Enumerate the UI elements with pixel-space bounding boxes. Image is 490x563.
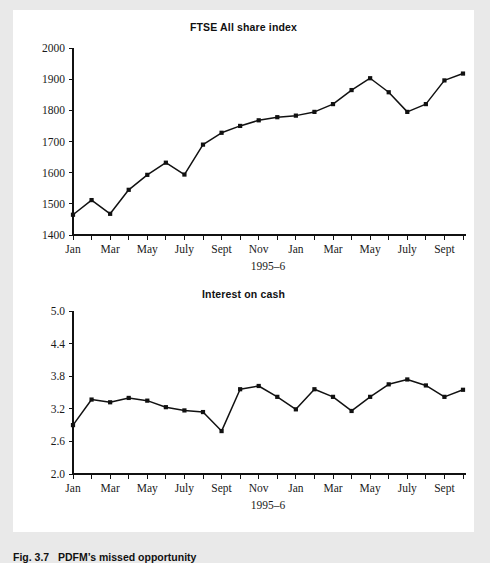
x-tick-label: July [398, 243, 417, 256]
data-point-marker [238, 124, 242, 128]
x-tick-label: Sept [211, 243, 232, 256]
data-point-marker [164, 405, 168, 409]
series-line [73, 74, 463, 215]
plot-area-interest: 2.02.63.23.84.45.0JanMarMayJulySeptNovJa… [13, 278, 474, 510]
data-point-marker [257, 384, 261, 388]
data-point-marker [349, 409, 353, 413]
y-tick-label: 1500 [42, 198, 65, 210]
data-point-marker [424, 102, 428, 106]
x-tick-label: Mar [323, 482, 342, 494]
data-point-marker [387, 382, 391, 386]
series-line [73, 379, 463, 431]
x-axis-caption: 1995–6 [251, 260, 286, 272]
data-point-marker [127, 188, 131, 192]
data-point-marker [387, 90, 391, 94]
x-tick-label: July [175, 243, 194, 256]
x-axis-caption: 1995–6 [251, 499, 286, 510]
data-point-marker [368, 76, 372, 80]
data-point-marker [294, 114, 298, 118]
x-tick-label: Nov [249, 482, 269, 494]
data-point-marker [442, 78, 446, 82]
figure-page: FTSE All share index 1400150016001700180… [0, 0, 490, 563]
data-point-marker [238, 387, 242, 391]
x-tick-label: Jan [288, 482, 304, 494]
data-point-marker [219, 131, 223, 135]
y-tick-label: 4.4 [51, 338, 66, 350]
y-tick-label: 2.0 [51, 468, 66, 480]
x-tick-label: Mar [101, 243, 120, 255]
data-point-marker [368, 395, 372, 399]
x-tick-label: Jan [65, 243, 81, 255]
data-point-marker [201, 143, 205, 147]
y-tick-label: 3.8 [51, 370, 66, 382]
data-point-marker [145, 399, 149, 403]
y-tick-label: 5.0 [51, 305, 66, 317]
data-point-marker [442, 395, 446, 399]
data-point-marker [71, 423, 75, 427]
data-point-marker [71, 213, 75, 217]
data-point-marker [89, 198, 93, 202]
data-point-marker [108, 400, 112, 404]
data-point-marker [424, 383, 428, 387]
data-point-marker [182, 408, 186, 412]
x-tick-label: Sept [434, 482, 455, 495]
figure-canvas: FTSE All share index 1400150016001700180… [13, 10, 474, 532]
plot-area-ftse: 1400150016001700180019002000JanMarMayJul… [13, 10, 474, 272]
x-tick-label: Sept [211, 482, 232, 495]
x-tick-label: Sept [434, 243, 455, 256]
data-point-marker [275, 115, 279, 119]
y-tick-label: 2000 [42, 42, 65, 54]
x-tick-label: Mar [323, 243, 342, 255]
data-point-marker [257, 118, 261, 122]
data-point-marker [127, 396, 131, 400]
x-tick-label: May [137, 482, 158, 495]
data-point-marker [294, 407, 298, 411]
data-point-marker [405, 377, 409, 381]
data-point-marker [219, 429, 223, 433]
y-tick-label: 1800 [42, 104, 65, 116]
x-tick-label: July [398, 482, 417, 495]
x-tick-label: Nov [249, 243, 269, 255]
x-tick-label: May [137, 243, 158, 256]
x-tick-label: May [360, 482, 381, 495]
y-tick-label: 2.6 [51, 435, 66, 447]
chart-ftse-all-share-index: FTSE All share index 1400150016001700180… [13, 10, 474, 272]
y-tick-label: 1600 [42, 167, 65, 179]
data-point-marker [108, 212, 112, 216]
data-point-marker [201, 410, 205, 414]
data-point-marker [331, 395, 335, 399]
data-point-marker [182, 172, 186, 176]
data-point-marker [312, 387, 316, 391]
data-point-marker [349, 88, 353, 92]
x-tick-label: Jan [65, 482, 81, 494]
data-point-marker [331, 102, 335, 106]
figure-caption: Fig. 3.7 PDFM’s missed opportunity [13, 551, 433, 563]
y-tick-label: 1700 [42, 136, 65, 148]
x-tick-label: July [175, 482, 194, 495]
data-point-marker [145, 173, 149, 177]
x-tick-label: Jan [288, 243, 304, 255]
x-tick-label: May [360, 243, 381, 256]
data-point-marker [164, 161, 168, 165]
data-point-marker [461, 71, 465, 75]
x-tick-label: Mar [101, 482, 120, 494]
y-tick-label: 3.2 [51, 403, 66, 415]
data-point-marker [275, 395, 279, 399]
y-tick-label: 1400 [42, 229, 65, 241]
y-tick-label: 1900 [42, 73, 65, 85]
data-point-marker [89, 397, 93, 401]
data-point-marker [312, 110, 316, 114]
data-point-marker [405, 110, 409, 114]
chart-interest-on-cash: Interest on cash 2.02.63.23.84.45.0JanMa… [13, 278, 474, 510]
data-point-marker [461, 388, 465, 392]
